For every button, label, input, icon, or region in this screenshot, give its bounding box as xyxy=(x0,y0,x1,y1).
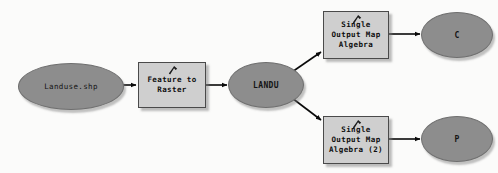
hammer-icon xyxy=(351,14,363,26)
hammer-icon xyxy=(167,65,179,77)
connector-landu-to-soma-2 xyxy=(292,98,321,120)
model-diagram-canvas: Landuse.shp Feature to Raster LANDU Sing… xyxy=(0,0,498,173)
data-node-label: C xyxy=(454,31,459,40)
data-node-landu[interactable]: LANDU xyxy=(228,62,304,108)
data-node-label: P xyxy=(454,135,459,144)
data-node-output-c[interactable]: C xyxy=(421,12,493,58)
data-node-label: Landuse.shp xyxy=(44,82,98,91)
process-node-single-output-map-algebra[interactable]: Single Output Map Algebra xyxy=(323,11,389,59)
process-node-single-output-map-algebra-2[interactable]: Single Output Map Algebra (2) xyxy=(323,116,389,164)
hammer-icon xyxy=(351,119,363,131)
process-node-label: Feature to Raster xyxy=(147,75,196,95)
data-node-landuse-shp[interactable]: Landuse.shp xyxy=(18,63,124,110)
process-node-feature-to-raster[interactable]: Feature to Raster xyxy=(138,62,206,108)
data-node-output-p[interactable]: P xyxy=(421,116,493,162)
connector-landu-to-soma-1 xyxy=(292,52,321,72)
data-node-label: LANDU xyxy=(253,81,279,90)
